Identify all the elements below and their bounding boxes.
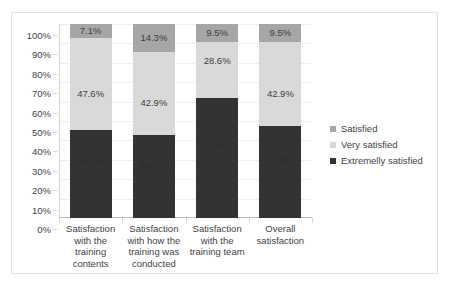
x-axis-category-label-line: training team <box>187 246 248 258</box>
x-axis-category-label-line: Satisfaction <box>123 223 184 235</box>
chart-legend: SatisfiedVery satisfiedExtremelly satisf… <box>330 121 435 169</box>
bar-segment-very-satisfied[interactable]: 47.6% <box>70 38 112 130</box>
bar-segment-extremely-satisfied[interactable]: 45.2% <box>70 130 112 218</box>
x-axis-category-label-line: with the <box>60 235 121 247</box>
x-axis-category-label-line: satisfaction <box>250 235 311 247</box>
plot-area: 7.1%47.6%45.2%14.3%42.9%42.9%9.5%28.6%61… <box>59 24 312 218</box>
y-axis-tick-mark <box>53 229 57 230</box>
x-axis-category-label-line: training was <box>123 246 184 258</box>
bar-segment-satisfied[interactable]: 9.5% <box>196 24 238 42</box>
x-axis-category-label: Satisfactionwith thetrainingcontents <box>59 223 122 269</box>
bar-data-label: 42.9% <box>140 98 167 108</box>
y-axis-tick-mark <box>53 151 57 152</box>
bar-data-label: 9.5% <box>206 28 228 38</box>
bar-segment-very-satisfied[interactable]: 28.6% <box>196 42 238 97</box>
category-separator-tick <box>312 218 313 223</box>
y-axis-tick-label: 40% <box>32 147 51 156</box>
y-axis-tick-mark <box>53 190 57 191</box>
x-axis-category-label-line: with how the <box>123 235 184 247</box>
bar-series-layer: 7.1%47.6%45.2%14.3%42.9%42.9%9.5%28.6%61… <box>59 24 312 218</box>
chart-container: 100%90%80%70%60%50%40%30%20%10%0% 7.1%47… <box>11 12 438 274</box>
y-axis-tick-mark <box>53 113 57 114</box>
legend-color-swatch-icon <box>330 142 336 148</box>
y-axis-tick-mark <box>53 54 57 55</box>
y-axis-tick-label: 50% <box>32 128 51 137</box>
y-axis-tick-label: 60% <box>32 108 51 117</box>
bar-data-label: 28.6% <box>204 56 231 66</box>
x-axis-category-label: Satisfactionwith thetraining team <box>186 223 249 269</box>
bar-segment-extremely-satisfied[interactable]: 61.9% <box>196 98 238 218</box>
legend-color-swatch-icon <box>330 158 336 164</box>
y-axis-tick-label: 80% <box>32 69 51 78</box>
x-axis-category-label-line: Satisfaction <box>187 223 248 235</box>
x-axis-category-label: Satisfactionwith how thetraining wascond… <box>122 223 185 269</box>
x-axis-category-label-line: Satisfaction <box>60 223 121 235</box>
bar-segment-extremely-satisfied[interactable]: 42.9% <box>133 135 175 218</box>
bar-data-label: 42.9% <box>267 89 294 99</box>
bar-slot: 9.5%42.9%47.6% <box>249 24 312 218</box>
y-axis-tick-label: 100% <box>27 31 51 40</box>
x-axis-labels: Satisfactionwith thetrainingcontentsSati… <box>59 223 312 269</box>
x-axis-category-label-line: contents <box>60 258 121 270</box>
y-axis-tick-mark <box>53 171 57 172</box>
bar-slot: 7.1%47.6%45.2% <box>59 24 122 218</box>
y-axis-tick-label: 20% <box>32 186 51 195</box>
legend-label: Satisfied <box>341 124 377 134</box>
bar-data-label: 42.9% <box>140 160 167 170</box>
y-axis-tick-label: 10% <box>32 205 51 214</box>
legend-label: Extremelly satisfied <box>341 156 423 166</box>
x-axis-category-label-line: Overall <box>250 223 311 235</box>
bar-slot: 14.3%42.9%42.9% <box>122 24 185 218</box>
bar-segment-satisfied[interactable]: 7.1% <box>70 24 112 38</box>
bar-segment-extremely-satisfied[interactable]: 47.6% <box>259 126 301 218</box>
bar-segment-very-satisfied[interactable]: 42.9% <box>133 52 175 135</box>
x-axis-category-label: Overallsatisfaction <box>249 223 312 269</box>
bar-data-label: 9.5% <box>270 28 292 38</box>
y-axis-tick-label: 70% <box>32 89 51 98</box>
bar-data-label: 14.3% <box>140 33 167 43</box>
bar-slot: 9.5%28.6%61.9% <box>186 24 249 218</box>
y-axis-tick-mark <box>53 93 57 94</box>
y-axis-tick-label: 0% <box>37 225 51 234</box>
bar-data-label: 47.6% <box>77 89 104 99</box>
bar-stack[interactable]: 9.5%42.9%47.6% <box>259 24 301 218</box>
y-axis-tick-label: 90% <box>32 50 51 59</box>
bar-stack[interactable]: 9.5%28.6%61.9% <box>196 24 238 218</box>
y-axis: 100%90%80%70%60%50%40%30%20%10%0% <box>12 24 57 218</box>
y-axis-tick-mark <box>53 35 57 36</box>
legend-color-swatch-icon <box>330 126 336 132</box>
y-axis-tick-mark <box>53 210 57 211</box>
bar-data-label: 45.2% <box>77 157 104 167</box>
bar-data-label: 61.9% <box>204 141 231 151</box>
bar-stack[interactable]: 14.3%42.9%42.9% <box>133 24 175 218</box>
bar-segment-satisfied[interactable]: 9.5% <box>259 24 301 42</box>
bar-segment-very-satisfied[interactable]: 42.9% <box>259 42 301 125</box>
bar-data-label: 47.6% <box>267 155 294 165</box>
legend-item[interactable]: Very satisfied <box>330 137 435 153</box>
bar-segment-satisfied[interactable]: 14.3% <box>133 24 175 52</box>
bar-data-label: 7.1% <box>80 26 102 36</box>
y-axis-tick-label: 30% <box>32 166 51 175</box>
y-axis-tick-mark <box>53 132 57 133</box>
legend-item[interactable]: Extremelly satisfied <box>330 153 435 169</box>
legend-item[interactable]: Satisfied <box>330 121 435 137</box>
legend-label: Very satisfied <box>341 140 398 150</box>
y-axis-tick-mark <box>53 74 57 75</box>
x-axis-category-label-line: training <box>60 246 121 258</box>
bar-stack[interactable]: 7.1%47.6%45.2% <box>70 24 112 218</box>
x-axis-category-label-line: conducted <box>123 258 184 270</box>
x-axis-category-label-line: with the <box>187 235 248 247</box>
